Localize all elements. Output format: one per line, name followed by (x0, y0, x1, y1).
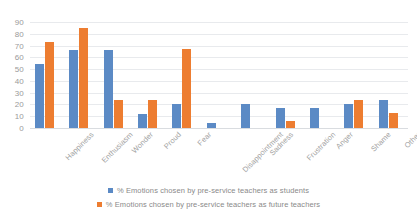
y-tick-label-50: 50 (15, 65, 24, 74)
bar-group (133, 22, 167, 128)
bar-group (202, 22, 236, 128)
x-tick-label: Anger (334, 130, 355, 151)
x-tick-label: Proud (162, 130, 183, 151)
bar[interactable] (379, 100, 388, 128)
x-tick-label: Wonder (130, 130, 155, 155)
bar-group (99, 22, 133, 128)
bar-group (271, 22, 305, 128)
y-tick-label-60: 60 (15, 53, 24, 62)
x-tick-label: Fear (195, 130, 213, 148)
bar[interactable] (389, 113, 398, 128)
bar[interactable] (182, 49, 191, 128)
bar-group (374, 22, 408, 128)
legend-label: % Emotions chosen by pre-service teacher… (106, 200, 320, 209)
bar[interactable] (354, 100, 363, 128)
y-tick-label-70: 70 (15, 41, 24, 50)
bar[interactable] (69, 50, 78, 128)
legend-item[interactable]: % Emotions chosen by pre-service teacher… (108, 186, 309, 195)
bar-group (236, 22, 270, 128)
bar[interactable] (114, 100, 123, 128)
legend-item[interactable]: % Emotions chosen by pre-service teacher… (97, 200, 320, 209)
bar[interactable] (148, 100, 157, 128)
bar[interactable] (276, 108, 285, 128)
legend-swatch-icon (97, 202, 102, 207)
bars-layer (30, 22, 408, 128)
bar[interactable] (172, 104, 181, 128)
legend-swatch-icon (108, 188, 113, 193)
y-tick-label-90: 90 (15, 18, 24, 27)
bar[interactable] (286, 121, 295, 128)
bar[interactable] (310, 108, 319, 128)
x-tick-label: Shame (370, 130, 394, 154)
x-tick-label: Frustration (305, 130, 337, 162)
y-tick-label-30: 30 (15, 88, 24, 97)
legend-label: % Emotions chosen by pre-service teacher… (117, 186, 309, 195)
x-tick-label: Other (402, 130, 417, 150)
bar[interactable] (79, 28, 88, 128)
bar-group (167, 22, 201, 128)
bar[interactable] (241, 104, 250, 128)
y-tick-label-40: 40 (15, 76, 24, 85)
bar-group (64, 22, 98, 128)
x-axis: HappinessEnthusiasmWonderProudFearDisapp… (30, 128, 408, 180)
bar-group (339, 22, 373, 128)
y-tick-label-10: 10 (15, 112, 24, 121)
bar[interactable] (104, 50, 113, 128)
y-tick-label-0: 0 (19, 124, 24, 133)
bar-group (305, 22, 339, 128)
x-tick-label: Enthusiasm (99, 130, 134, 165)
y-tick-label-80: 80 (15, 29, 24, 38)
y-tick-label-20: 20 (15, 100, 24, 109)
x-tick-label: Happiness (64, 130, 96, 162)
bar[interactable] (45, 42, 54, 128)
bar[interactable] (344, 104, 353, 128)
bar-group (30, 22, 64, 128)
chart-legend: % Emotions chosen by pre-service teacher… (0, 186, 417, 209)
y-axis: 0102030405060708090 (0, 22, 28, 128)
bar[interactable] (138, 114, 147, 128)
bar-chart: 0102030405060708090 HappinessEnthusiasmW… (0, 0, 417, 219)
bar[interactable] (35, 64, 44, 128)
